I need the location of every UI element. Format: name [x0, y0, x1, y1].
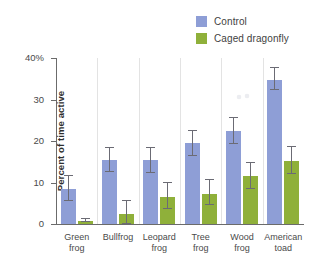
error-bar-cap-bottom [81, 221, 90, 222]
error-bar-cap-bottom [205, 204, 214, 205]
y-tick-10 [51, 183, 56, 184]
error-bar-line [109, 148, 110, 172]
x-axis-label-2: Leopard frog [139, 232, 180, 254]
y-tick-label-30: 30 [0, 94, 44, 105]
error-bar-cap-top [163, 182, 172, 183]
x-axis-line [56, 224, 304, 225]
x-axis-label-3: Tree frog [180, 232, 221, 254]
error-bar-cap-top [146, 147, 155, 148]
legend-label-caged-dragonfly: Caged dragonfly [214, 33, 289, 44]
error-bar-cap-bottom [64, 200, 73, 201]
error-bar-cap-bottom [188, 155, 197, 156]
error-bar-line [167, 183, 168, 209]
error-bar-cap-top [105, 147, 114, 148]
error-bar-cap-top [246, 162, 255, 163]
chart-legend: Control Caged dragonfly [196, 13, 308, 47]
legend-swatch-caged-dragonfly [196, 33, 207, 44]
error-bar-line [126, 201, 127, 224]
error-bar-cap-bottom [270, 89, 279, 90]
y-tick-0 [51, 224, 56, 225]
error-bar-cap-top [188, 130, 197, 131]
group-separator-1 [97, 58, 98, 224]
error-bar-cap-bottom [105, 171, 114, 172]
y-tick-label-10: 10 [0, 177, 44, 188]
x-axis-label-1: Bullfrog [97, 232, 138, 243]
error-bar-cap-top [229, 117, 238, 118]
error-bar-line [250, 163, 251, 189]
error-bar-cap-top [205, 179, 214, 180]
group-separator-4 [221, 58, 222, 224]
error-bar-cap-bottom [246, 188, 255, 189]
error-bar-cap-bottom [287, 173, 296, 174]
error-bar-line [233, 118, 234, 144]
error-bar-line [150, 148, 151, 173]
legend-label-control: Control [214, 16, 247, 27]
bar-rect [226, 131, 241, 224]
x-axis-label-5: American toad [263, 232, 304, 254]
error-bar-cap-bottom [122, 223, 131, 224]
legend-swatch-control [196, 16, 207, 27]
error-bar-cap-bottom [163, 208, 172, 209]
error-bar-line [209, 180, 210, 205]
bar-rect [267, 80, 282, 224]
error-bar-cap-top [64, 175, 73, 176]
legend-item-control: Control [196, 13, 308, 30]
error-bar-line [274, 68, 275, 89]
scan-artifact-mark [236, 93, 250, 101]
error-bar-line [291, 147, 292, 174]
y-tick-20 [51, 141, 56, 142]
error-bar-cap-bottom [229, 143, 238, 144]
legend-item-caged-dragonfly: Caged dragonfly [196, 30, 308, 47]
y-tick-label-40: 40% [0, 52, 44, 63]
error-bar-line [192, 131, 193, 156]
y-tick-40 [51, 58, 56, 59]
y-tick-label-0: 0 [0, 218, 44, 229]
y-tick-label-20: 20 [0, 135, 44, 146]
bar-chart-plot-area: Percent of time active 010203040% [56, 58, 304, 224]
error-bar-cap-top [270, 67, 279, 68]
x-axis-label-0: Green frog [56, 232, 97, 254]
error-bar-cap-bottom [146, 172, 155, 173]
group-separator-2 [139, 58, 140, 224]
group-separator-5 [263, 58, 264, 224]
error-bar-cap-top [287, 146, 296, 147]
error-bar-cap-top [81, 218, 90, 219]
x-axis-label-4: Wood frog [221, 232, 262, 254]
error-bar-cap-top [122, 200, 131, 201]
group-separator-3 [180, 58, 181, 224]
y-tick-30 [51, 100, 56, 101]
error-bar-line [68, 176, 69, 201]
